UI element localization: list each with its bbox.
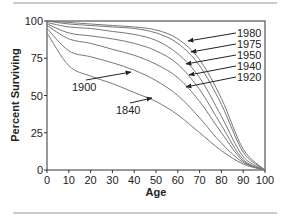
x-tick-label: 0 [44,174,50,186]
x-tick-label: 40 [128,174,140,186]
arrow-1940 [189,66,236,75]
x-tick-label: 20 [84,174,96,186]
arrow-1900 [86,72,131,80]
x-tick-label: 80 [215,174,227,186]
arrow-1975 [191,44,236,52]
y-tick-label: 50 [31,90,43,102]
curve-1920 [47,25,265,170]
arrow-1840 [130,98,152,103]
x-axis-title: Age [146,186,167,198]
x-tick-label: 70 [193,174,205,186]
y-axis-title: Percent Surviving [9,48,21,142]
y-tick-label: 100 [25,15,43,27]
year-annotations: 1980197519501940192019001840 [72,27,261,116]
x-tick-label: 90 [237,174,249,186]
curve-1840 [47,33,265,170]
y-tick-label: 75 [31,52,43,64]
y-tick-label: 0 [37,164,43,176]
y-tick-label: 25 [31,127,43,139]
label-1900: 1900 [72,81,96,93]
x-tick-label: 100 [256,174,274,186]
x-tick-label: 60 [172,174,184,186]
x-tick-label: 50 [150,174,162,186]
arrow-1950 [186,55,236,64]
label-1920: 1920 [237,71,261,83]
survival-curves [47,21,265,170]
survival-chart: 01020304050607080901000255075100 1980197… [0,0,289,218]
arrow-1980 [188,33,236,41]
x-tick-label: 10 [63,174,75,186]
x-tick-label: 30 [106,174,118,186]
label-1840: 1840 [116,104,140,116]
